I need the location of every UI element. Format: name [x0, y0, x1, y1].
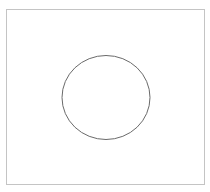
frame-border — [7, 10, 205, 185]
circle-shape — [62, 56, 150, 140]
diagram-canvas — [0, 0, 210, 192]
